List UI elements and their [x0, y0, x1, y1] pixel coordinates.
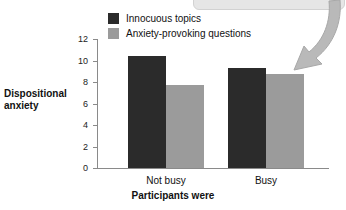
x-tick-label-busy: Busy: [255, 175, 277, 186]
legend-item-innocuous-topics: Innocuous topics: [108, 11, 251, 26]
y-tick-label-2: 2: [83, 142, 88, 151]
bar-busy-innocuous: [228, 68, 266, 168]
legend: Innocuous topics Anxiety-provoking quest…: [108, 11, 251, 41]
y-axis-title-line1: Dispositional: [4, 88, 78, 100]
y-tick-label-10: 10: [78, 56, 88, 65]
legend-item-anxiety-provoking-questions: Anxiety-provoking questions: [108, 26, 251, 41]
legend-label-anxiety-provoking-questions: Anxiety-provoking questions: [126, 29, 251, 39]
legend-label-innocuous-topics: Innocuous topics: [126, 14, 201, 24]
bar-not-busy-anxiety: [166, 85, 204, 168]
legend-swatch-innocuous-topics: [108, 13, 119, 24]
x-tick-label-not-busy: Not busy: [146, 175, 185, 186]
y-axis-line: [97, 39, 98, 168]
x-axis-line: [97, 168, 329, 169]
bar-not-busy-innocuous: [128, 56, 166, 168]
y-tick-12: 12: [93, 39, 97, 40]
x-axis-title: Participants were: [0, 190, 346, 201]
legend-swatch-anxiety-provoking-questions: [108, 28, 119, 39]
y-tick-2: 2: [93, 147, 97, 148]
y-tick-label-4: 4: [83, 121, 88, 130]
y-tick-8: 8: [93, 82, 97, 83]
y-axis-title: Dispositional anxiety: [4, 88, 78, 112]
bar-busy-anxiety: [266, 74, 304, 168]
y-tick-label-12: 12: [78, 35, 88, 44]
callout-box: [193, 0, 345, 10]
bar-chart-figure: Dispositional anxiety 0 2 4 6 8 10 12: [0, 0, 346, 210]
plot-area: 0 2 4 6 8 10 12 Not busy Busy: [97, 39, 329, 168]
y-tick-label-8: 8: [83, 78, 88, 87]
y-axis-title-line2: anxiety: [4, 100, 78, 112]
y-tick-label-0: 0: [83, 164, 88, 173]
y-tick-4: 4: [93, 125, 97, 126]
y-tick-0: 0: [93, 168, 97, 169]
y-tick-6: 6: [93, 104, 97, 105]
y-tick-label-6: 6: [83, 99, 88, 108]
y-tick-10: 10: [93, 61, 97, 62]
